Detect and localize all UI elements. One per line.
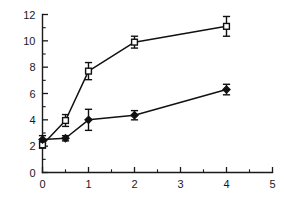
- x-tick-label: 4: [223, 178, 229, 190]
- y-tick-label: 4: [29, 114, 35, 126]
- data-point-open-square: [132, 39, 138, 45]
- x-tick-label: 5: [269, 178, 275, 190]
- data-point-open-square: [224, 23, 230, 29]
- y-tick-label: 8: [29, 61, 35, 73]
- data-point-open-square: [63, 118, 69, 124]
- data-point-open-square: [86, 68, 92, 74]
- x-tick-label: 2: [131, 178, 137, 190]
- y-tick-label: 0: [29, 167, 35, 179]
- x-tick-label: 1: [85, 178, 91, 190]
- y-tick-label: 2: [29, 140, 35, 152]
- y-tick-label: 10: [23, 35, 35, 47]
- line-chart-plot: 012345 024681012: [0, 0, 283, 206]
- chart-container: 012345 024681012: [0, 0, 283, 206]
- y-tick-label: 6: [29, 88, 35, 100]
- y-tick-label: 12: [23, 9, 35, 21]
- x-tick-label: 3: [177, 178, 183, 190]
- x-tick-label: 0: [39, 178, 45, 190]
